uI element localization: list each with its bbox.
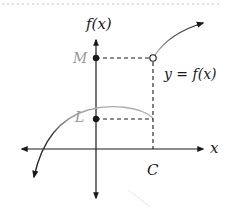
function-label: y = f(x) bbox=[163, 66, 217, 82]
x-axis-label: x bbox=[210, 139, 219, 157]
function-graph-figure: f(x) x M L C y = f(x) bbox=[0, 0, 227, 210]
point-m-dot bbox=[93, 55, 99, 61]
faint-artifact-line bbox=[128, 190, 150, 207]
point-l-dot bbox=[93, 116, 99, 122]
l-value-label: L bbox=[74, 109, 84, 125]
y-axis-label: f(x) bbox=[85, 15, 112, 33]
curve-right-branch bbox=[155, 23, 203, 55]
c-point-label: C bbox=[147, 161, 159, 179]
open-circle-dot bbox=[150, 55, 156, 61]
m-value-label: M bbox=[72, 50, 88, 66]
